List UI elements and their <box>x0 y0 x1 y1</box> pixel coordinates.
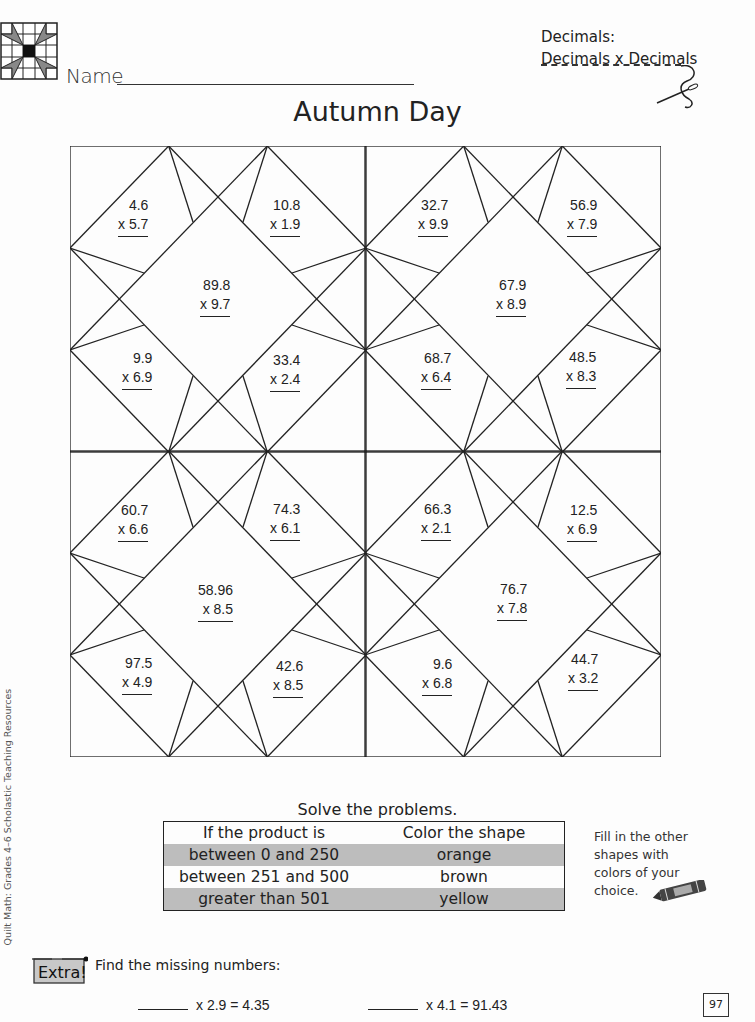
problem-card: 56.9x 7.9 <box>567 196 597 237</box>
problem-card: 4.6x 5.7 <box>118 196 148 237</box>
crayon-icon <box>650 880 710 902</box>
table-row: greater than 501 yellow <box>164 888 565 911</box>
problem-card: 12.5x 6.9 <box>567 501 597 542</box>
range-cell: between 251 and 500 <box>164 866 365 888</box>
problem-card: 9.6x 6.8 <box>422 655 452 696</box>
table-header-row: If the product is Color the shape <box>164 822 565 845</box>
color-key-table: If the product is Color the shape betwee… <box>163 821 565 911</box>
name-input-line[interactable] <box>117 84 414 85</box>
solve-instruction: Solve the problems. <box>0 800 755 819</box>
problem-card: 67.9x 8.9 <box>496 276 526 317</box>
quilt-block-icon <box>0 22 58 80</box>
page-number: 97 <box>703 993 729 1017</box>
column-header: If the product is <box>164 822 365 845</box>
color-cell: orange <box>364 844 565 866</box>
problem-card: 9.9x 6.9 <box>122 349 152 390</box>
range-cell: greater than 501 <box>164 888 365 911</box>
problem-card: 48.5x 8.3 <box>566 348 596 389</box>
note-line: Fill in the other <box>594 828 688 846</box>
missing-number-equation: x 2.9 = 4.35 <box>138 997 270 1013</box>
column-header: Color the shape <box>364 822 565 845</box>
topic-line-1: Decimals: <box>541 26 697 48</box>
extra-prompt: Find the missing numbers: <box>95 957 280 973</box>
worksheet-title: Autumn Day <box>0 96 755 127</box>
problem-card: 68.7x 6.4 <box>421 349 451 390</box>
note-line: shapes with <box>594 846 688 864</box>
name-label: Name <box>66 64 123 88</box>
extra-badge: Extra! <box>32 955 88 985</box>
problem-card: 58.96x 8.5 <box>198 581 233 622</box>
missing-number-equation: x 4.1 = 91.43 <box>368 997 507 1013</box>
problem-card: 42.6x 8.5 <box>273 657 303 698</box>
problem-card: 32.7x 9.9 <box>418 196 448 237</box>
color-cell: brown <box>364 866 565 888</box>
quilt-puzzle: 4.6x 5.7 10.8x 1.9 89.8x 9.7 9.9x 6.9 33… <box>70 146 661 757</box>
problem-card: 74.3x 6.1 <box>270 500 300 541</box>
answer-blank[interactable] <box>138 1009 188 1010</box>
problem-card: 10.8x 1.9 <box>270 196 300 237</box>
svg-text:Extra!: Extra! <box>38 963 87 982</box>
range-cell: between 0 and 250 <box>164 844 365 866</box>
problem-card: 97.5x 4.9 <box>122 654 152 695</box>
table-row: between 251 and 500 brown <box>164 866 565 888</box>
problem-card: 44.7x 3.2 <box>568 650 598 691</box>
problem-card: 60.7x 6.6 <box>118 501 148 542</box>
side-credit: Quilt Math: Grades 4–6 Scholastic Teachi… <box>2 776 13 946</box>
problem-card: 33.4x 2.4 <box>270 351 300 392</box>
answer-blank[interactable] <box>368 1009 418 1010</box>
problem-card: 89.8x 9.7 <box>200 276 230 317</box>
table-row: between 0 and 250 orange <box>164 844 565 866</box>
color-cell: yellow <box>364 888 565 911</box>
problem-card: 76.7x 7.8 <box>497 580 527 621</box>
problem-card: 66.3x 2.1 <box>421 500 451 541</box>
